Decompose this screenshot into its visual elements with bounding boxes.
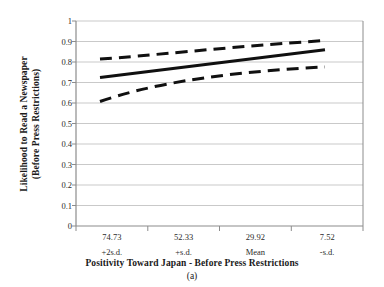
series-predicted-line [100, 50, 325, 78]
x-tick-label: 74.73 [102, 232, 121, 242]
series-upper-bound-line [100, 41, 325, 60]
x-tick-label: 7.52 [320, 232, 335, 242]
data-series [100, 41, 325, 102]
x-tick-group: 29.92 Mean [219, 231, 291, 259]
x-tick-label: 52.33 [174, 232, 193, 242]
x-tick-group: 74.73 +2s.d. [76, 231, 148, 259]
figure-caption: (a) [0, 271, 384, 281]
x-tick-label: 29.92 [246, 232, 265, 242]
x-axis-title: Positivity Toward Japan - Before Press R… [0, 258, 384, 268]
figure-container: Likelihood to Read a Newspaper (Before P… [0, 0, 384, 287]
x-tick-group: 52.33 +s.d. [148, 231, 220, 259]
x-tick-group: 7.52 -s.d. [291, 231, 363, 259]
